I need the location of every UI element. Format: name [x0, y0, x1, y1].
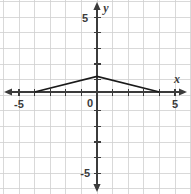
x-axis-arrow-left	[4, 88, 12, 95]
x-axis	[4, 88, 187, 95]
y-axis	[93, 2, 100, 192]
x-tick-label-neg-five: -5	[14, 98, 24, 110]
y-tick-label-neg-five: -5	[80, 167, 90, 179]
y-tick-label-pos-five: 5	[82, 12, 88, 24]
grid-lines	[0, 0, 191, 194]
y-axis-label: y	[101, 1, 109, 15]
y-axis-arrow-top	[93, 2, 100, 10]
x-axis-arrow-right	[179, 88, 187, 95]
graph-canvas: -5 5 0 5 -5 x y	[0, 0, 191, 194]
x-axis-label: x	[173, 72, 180, 86]
origin-label: 0	[87, 97, 93, 109]
coordinate-plane-graph: -5 5 0 5 -5 x y	[0, 0, 191, 194]
y-axis-arrow-bottom	[93, 184, 100, 192]
x-tick-label-pos-five: 5	[172, 98, 178, 110]
